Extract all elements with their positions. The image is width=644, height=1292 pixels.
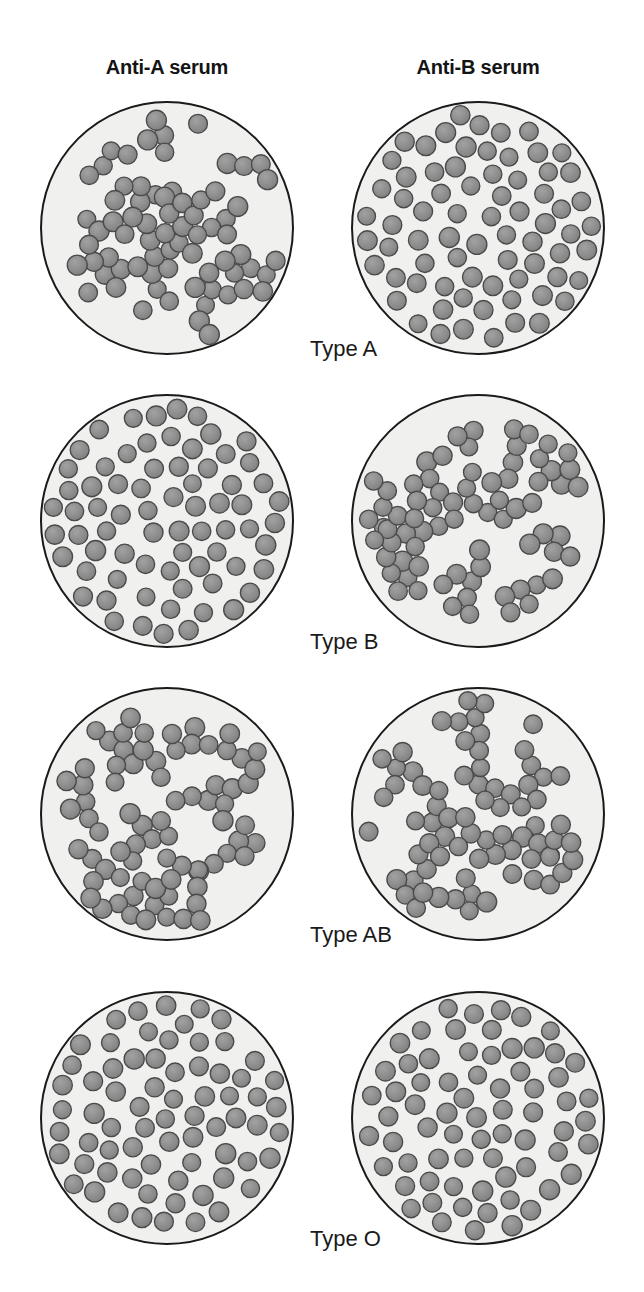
blood-cell (183, 1154, 201, 1172)
blood-cell (395, 189, 413, 207)
blood-cell (108, 570, 126, 588)
blood-cell (188, 407, 206, 425)
blood-cell (576, 1111, 596, 1131)
blood-cell (135, 724, 153, 742)
blood-cell (557, 1092, 576, 1111)
blood-cell (373, 180, 391, 198)
blood-cell (84, 1103, 104, 1123)
blood-cell (374, 498, 392, 516)
blood-cell (437, 1103, 457, 1123)
plate-type-o-anti-a (41, 992, 293, 1244)
blood-cell (524, 715, 543, 734)
blood-cell (161, 870, 181, 890)
blood-cell (105, 190, 125, 210)
blood-cell (203, 574, 222, 593)
blood-cell (169, 457, 188, 476)
blood-cell (160, 1132, 179, 1151)
blood-cell (123, 207, 143, 227)
blood-cell (221, 1087, 239, 1105)
blood-cell (465, 1221, 484, 1240)
blood-cell (476, 791, 494, 809)
blood-cell (551, 767, 570, 786)
blood-cell (387, 268, 406, 287)
blood-cell (470, 849, 489, 868)
blood-cell (79, 1133, 97, 1151)
blood-cell (238, 1152, 256, 1170)
blood-cell (267, 1097, 286, 1116)
blood-cell (535, 214, 555, 234)
blood-cell (241, 1179, 259, 1197)
blood-cell (520, 122, 539, 141)
blood-cell (405, 1095, 425, 1115)
blood-cell (396, 1177, 415, 1196)
blood-cell (386, 1082, 406, 1102)
blood-cell (109, 475, 128, 494)
blood-cell (50, 1144, 70, 1164)
blood-cell (79, 283, 98, 302)
blood-cell (169, 521, 189, 541)
blood-cell (188, 226, 206, 244)
blood-cell (482, 207, 500, 225)
plate-type-b-anti-a (41, 395, 293, 647)
blood-cell (128, 257, 148, 277)
blood-cell (212, 1010, 231, 1029)
blood-cell (132, 1208, 152, 1228)
blood-cell (406, 537, 424, 555)
blood-cell (529, 472, 548, 491)
blood-cell (506, 313, 525, 332)
blood-cell (253, 282, 272, 301)
blood-cell (139, 1185, 157, 1203)
blood-cell (161, 562, 179, 580)
blood-cell (444, 597, 462, 615)
blood-cell (108, 1203, 128, 1223)
blood-cell (483, 276, 503, 296)
blood-cell (501, 603, 520, 622)
blood-cell (254, 474, 273, 493)
blood-cell (407, 491, 426, 510)
blood-cell (111, 505, 130, 524)
blood-cell (137, 588, 155, 606)
blood-cell (546, 1044, 565, 1063)
column-header-anti-b: Anti-B serum (416, 56, 539, 79)
blood-cell (553, 144, 571, 162)
blood-cell (470, 116, 489, 135)
blood-cell (363, 1086, 382, 1105)
blood-cell (162, 724, 181, 743)
blood-cell (249, 743, 267, 761)
blood-cell (63, 1056, 81, 1074)
blood-cell (559, 444, 577, 462)
blood-cell (552, 200, 570, 218)
blood-cell (490, 1079, 509, 1098)
blood-cell (139, 501, 157, 519)
blood-cell (409, 315, 427, 333)
blood-cell (451, 106, 470, 125)
blood-cell (454, 1088, 474, 1108)
blood-cell (107, 1010, 126, 1029)
blood-cell (434, 575, 452, 593)
blood-cell (572, 192, 591, 211)
blood-cell (179, 620, 198, 639)
blood-cell (232, 495, 252, 515)
blood-cell (162, 427, 180, 445)
blood-cell (469, 1066, 487, 1084)
blood-cell (418, 1118, 437, 1137)
blood-cell (216, 445, 235, 464)
blood-cell (206, 182, 225, 201)
blood-cell (408, 230, 428, 250)
blood-cell (132, 177, 151, 196)
blood-cell (189, 861, 207, 879)
blood-cell (474, 301, 493, 320)
blood-cell (189, 114, 208, 133)
blood-cell (484, 1149, 503, 1168)
blood-cell (365, 256, 384, 275)
blood-cell (383, 151, 401, 169)
blood-cell (523, 494, 542, 513)
blood-cell (420, 1172, 439, 1191)
blood-cell (145, 459, 164, 478)
blood-cell (455, 1149, 473, 1167)
blood-cell (236, 816, 255, 835)
blood-cell (64, 1175, 83, 1194)
blood-cell (216, 1033, 234, 1051)
blood-cell (235, 847, 254, 866)
blood-cell (568, 477, 588, 497)
